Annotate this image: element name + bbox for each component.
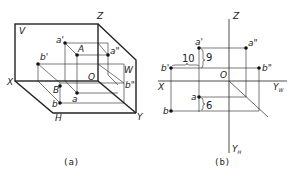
axis-y-label: Y <box>137 112 144 122</box>
axis-yh-label: YH <box>232 144 242 155</box>
dimension-9: 9 <box>206 52 212 63</box>
v-plane <box>15 24 98 81</box>
dimension-9-brace <box>201 49 205 68</box>
label-b-b: b <box>163 106 169 116</box>
dimension-6: 6 <box>206 100 212 111</box>
label-b-a-prime: a' <box>195 37 203 47</box>
label-b-a-double-prime: a" <box>248 38 258 48</box>
plane-v-label: V <box>19 26 26 36</box>
axis-o-label: O <box>88 72 95 82</box>
label-a: a <box>72 94 78 104</box>
dimension-6-brace <box>201 98 205 110</box>
point-b-b-prime <box>169 66 173 70</box>
caption-b: (b) <box>214 157 230 167</box>
point-b-a <box>197 95 201 99</box>
axis-o-label-b: O <box>220 70 227 80</box>
point-b-prime <box>36 62 40 66</box>
label-a-prime: a' <box>56 35 64 45</box>
axis-yw-label: YW <box>273 82 285 93</box>
axis-z-label-b: Z <box>232 11 240 21</box>
label-b-a: a <box>191 92 197 102</box>
label-A: A <box>77 44 84 54</box>
label-a-double-prime: a" <box>110 46 120 56</box>
axis-x-label-b: X <box>157 82 165 92</box>
point-b-b <box>169 109 173 113</box>
point-b <box>58 101 62 105</box>
axis-x-label: X <box>6 77 14 87</box>
label-b: b <box>52 99 58 109</box>
axis-z-label: Z <box>96 11 104 21</box>
plane-h-label: H <box>55 113 62 123</box>
projection-diagram: Z V W a' A a" b' O X b" B a b H Y (a) <box>0 0 289 175</box>
label-b-b-prime: b' <box>161 63 169 73</box>
label-b-double-prime: b" <box>125 80 135 90</box>
dimension-10: 10 <box>182 53 195 64</box>
diagonal-45 <box>229 81 268 117</box>
plane-w-label: W <box>124 65 134 75</box>
label-B: B <box>53 85 59 95</box>
figure-b <box>158 19 287 153</box>
label-b-prime: b' <box>40 52 48 62</box>
caption-a: (a) <box>63 157 79 167</box>
label-b-b-double-prime: b" <box>262 63 272 73</box>
point-b-b-double-prime <box>257 66 261 70</box>
